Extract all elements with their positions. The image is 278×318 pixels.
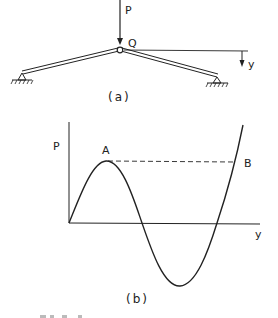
- y-axis: [69, 223, 260, 224]
- right-pin-support-icon: [206, 77, 228, 87]
- left-bar-edge1: [22, 48, 118, 71]
- right-bar-edge2: [121, 51, 217, 77]
- caption-b: (b): [126, 292, 149, 306]
- load-label: P: [125, 4, 132, 17]
- reference-line: [124, 50, 248, 51]
- caption-a: (a): [108, 90, 131, 104]
- right-bar-edge1: [122, 48, 218, 74]
- displacement-arrow-head-icon: [240, 60, 245, 67]
- equilibrium-curve: [69, 125, 243, 286]
- hinge-node-icon: [117, 47, 123, 53]
- load-arrow-head-icon: [117, 38, 123, 45]
- point-b-label: B: [244, 157, 252, 170]
- p-axis-label: P: [53, 140, 60, 153]
- y-axis-label: y: [255, 228, 262, 241]
- load-displacement-plot: [69, 122, 260, 286]
- snap-through-dashed-line: [108, 161, 234, 162]
- point-a-label: A: [102, 144, 110, 157]
- left-pin-support-icon: [11, 73, 33, 84]
- figure: P Q y (a) P A B y (b): [0, 0, 278, 318]
- left-bar-edge2: [23, 51, 119, 74]
- node-label: Q: [128, 37, 137, 50]
- displacement-label: y: [248, 58, 255, 71]
